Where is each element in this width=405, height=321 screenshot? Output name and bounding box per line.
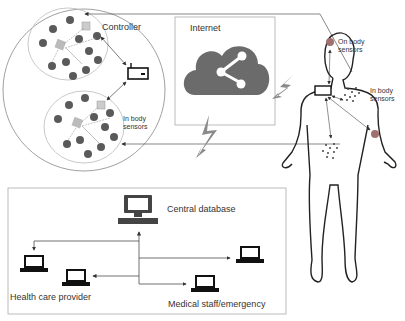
laptop-icon (191, 275, 219, 292)
laptop-icon (236, 246, 264, 263)
on-body-sensor-arm (371, 130, 379, 138)
human-body-outline (282, 33, 396, 282)
central-database-label: Central database (167, 205, 236, 215)
internet-label: Internet (190, 24, 221, 34)
on-body-sensors-label: On bodysensors (338, 38, 364, 53)
laptop-icon (62, 269, 90, 286)
sensor-cluster-upper (39, 16, 102, 80)
health-care-provider-label: Health care provider (10, 293, 91, 303)
body-gateway-icon (315, 86, 331, 95)
in-body-sensor-cluster-abdomen (322, 143, 338, 159)
controller-cube-icon (52, 22, 96, 64)
controller-label: Controller (102, 23, 141, 33)
sensor-cluster-lower (54, 94, 118, 158)
laptop-icon (20, 255, 48, 272)
in-body-sensors-label-human: In bodysensors (370, 87, 395, 102)
desktop-computer-icon (118, 195, 158, 224)
on-body-sensor-head (326, 38, 334, 46)
in-body-sensors-label-cluster: In bodysensors (123, 115, 148, 130)
medical-staff-label: Medical staff/emergency (168, 300, 265, 310)
